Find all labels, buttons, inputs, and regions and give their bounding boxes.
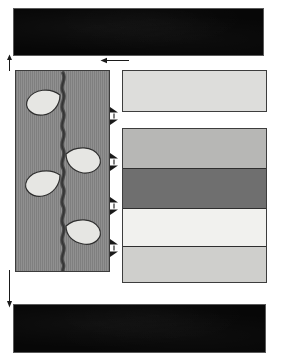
tiepoint-4 xyxy=(108,238,120,258)
lower-lithology-column xyxy=(122,128,267,283)
left-bottom-extent-leader xyxy=(5,270,15,308)
top-photo-plate xyxy=(14,9,263,55)
upper-lithology-column xyxy=(122,70,267,112)
leaf-4 xyxy=(66,220,100,244)
leaf-3 xyxy=(26,171,60,196)
band-upper-1 xyxy=(123,71,266,112)
leaf-1 xyxy=(27,90,60,115)
left-top-tick-leader xyxy=(5,54,15,72)
tiepoint-1 xyxy=(108,106,120,126)
leaf-2 xyxy=(66,148,100,173)
plant-specimen-panel xyxy=(15,70,110,272)
tiepoint-3 xyxy=(108,196,120,216)
band-lower-1 xyxy=(123,129,266,169)
bottom-photo-plate xyxy=(14,305,265,352)
band-lower-3 xyxy=(123,209,266,247)
band-lower-4 xyxy=(123,247,266,283)
plate-texture xyxy=(14,305,265,352)
tiepoint-2 xyxy=(108,152,120,172)
plant-fossil-drawing xyxy=(16,71,110,272)
top-correlation-leader xyxy=(100,57,130,65)
plate-texture xyxy=(14,9,263,55)
figure-canvas xyxy=(0,0,285,363)
band-lower-2 xyxy=(123,169,266,209)
